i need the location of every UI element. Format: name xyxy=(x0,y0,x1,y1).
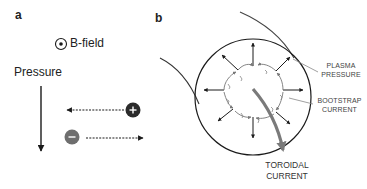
pressure-label: Pressure xyxy=(14,65,62,79)
gyration-ticks xyxy=(226,70,282,123)
panel-b-label: b xyxy=(155,11,162,25)
toroidal-current-arrow xyxy=(253,89,283,150)
bootstrap-current-label-line1: BOOTSTRAP xyxy=(312,96,367,105)
field-line-top xyxy=(240,12,294,58)
plasma-pressure-label: PLASMA PRESSURE xyxy=(316,61,366,79)
toroidal-current-label: TOROIDAL CURRENT xyxy=(262,160,312,182)
bootstrap-current-label-line2: CURRENT xyxy=(312,105,367,114)
positive-charge-icon xyxy=(126,103,141,118)
plasma-pressure-pointer xyxy=(293,59,318,72)
plasma-pressure-label-line1: PLASMA xyxy=(316,61,366,70)
bfield-label: B-field xyxy=(70,36,104,50)
field-line-left xyxy=(160,58,199,104)
toroidal-current-label-line2: CURRENT xyxy=(262,171,312,182)
toroidal-current-label-line1: TOROIDAL xyxy=(262,160,312,171)
negative-charge-icon xyxy=(65,130,80,145)
bootstrap-current-pointer xyxy=(289,98,313,104)
plasma-pressure-label-line2: PRESSURE xyxy=(316,70,366,79)
bootstrap-current-label: BOOTSTRAP CURRENT xyxy=(312,96,367,114)
bfield-out-of-page-icon xyxy=(56,39,67,50)
